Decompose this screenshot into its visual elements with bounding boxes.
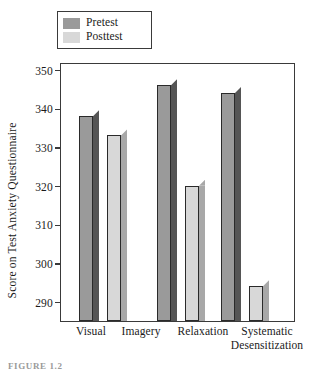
bar-top-bevel — [263, 280, 269, 286]
y-axis-tick-label: 340 — [35, 103, 53, 115]
y-axis-tick: 290 — [35, 297, 60, 309]
legend-item-posttest: Posttest — [63, 30, 145, 44]
legend-swatch-pretest — [63, 18, 80, 29]
y-axis-tick: 300 — [35, 258, 60, 270]
x-axis-tick-label: Systematic — [228, 325, 306, 339]
x-axis-labels: VisualImageryRelaxationSystematicDesensi… — [60, 325, 295, 357]
bar-face — [185, 186, 199, 321]
y-axis-tick-label: 350 — [35, 65, 53, 77]
x-axis-tick-label: Imagery — [114, 325, 168, 339]
bar-pretest-0 — [79, 110, 99, 321]
plot-frame — [60, 63, 295, 322]
y-axis-tick-label: 290 — [35, 297, 53, 309]
legend-label-posttest: Posttest — [86, 31, 123, 43]
bar-side-shadow — [199, 186, 205, 321]
figure-caption: FIGURE 1.2 — [8, 361, 63, 370]
bar-side-shadow — [235, 93, 241, 321]
y-axis-tick: 320 — [35, 181, 60, 193]
bar-top-bevel — [121, 129, 127, 135]
y-axis-tick-label: 300 — [35, 258, 53, 270]
bar-top-bevel — [93, 110, 99, 116]
y-axis-tick-label: 310 — [35, 219, 53, 231]
bar-side-shadow — [263, 286, 269, 321]
y-axis-tick-label: 330 — [35, 142, 53, 154]
bar-posttest-1 — [185, 180, 205, 321]
bar-pretest-1 — [157, 79, 177, 321]
bar-posttest-2 — [249, 280, 269, 321]
bar-face — [249, 286, 263, 321]
bar-face — [107, 135, 121, 321]
y-axis-tick: 330 — [35, 142, 60, 154]
y-axis-ticks: 290300310320330340350 — [0, 63, 60, 322]
y-axis-tick: 350 — [35, 65, 60, 77]
bar-pretest-2 — [221, 87, 241, 321]
y-axis-tick: 340 — [35, 103, 60, 115]
bars-layer — [61, 64, 294, 321]
legend-swatch-posttest — [63, 32, 80, 43]
bar-side-shadow — [171, 85, 177, 321]
legend-item-pretest: Pretest — [63, 16, 145, 30]
bar-side-shadow — [93, 116, 99, 321]
x-axis-tick-label: Relaxation — [170, 325, 236, 339]
y-axis-tick-label: 320 — [35, 181, 53, 193]
bar-top-bevel — [199, 180, 205, 186]
bar-face — [157, 85, 171, 321]
bar-side-shadow — [121, 135, 127, 321]
y-axis-tick: 310 — [35, 219, 60, 231]
bar-posttest-0 — [107, 129, 127, 321]
chart-legend: Pretest Posttest — [57, 11, 152, 49]
legend-label-pretest: Pretest — [86, 17, 118, 29]
x-axis-tick-label: Visual — [68, 325, 114, 339]
x-axis-tick-label: Desensitization — [212, 339, 309, 353]
bar-face — [79, 116, 93, 321]
bar-face — [221, 93, 235, 321]
